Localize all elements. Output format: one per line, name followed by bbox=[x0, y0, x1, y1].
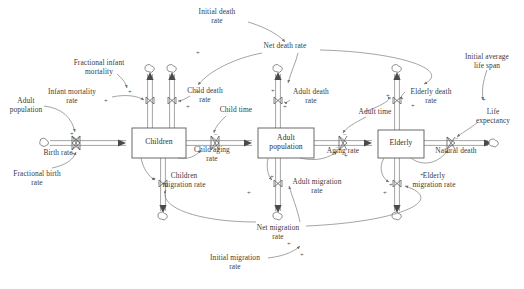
link-net-death-rate-to-child-death-rate bbox=[198, 53, 262, 85]
polarity-sign: + bbox=[70, 131, 74, 138]
stock-box-elderly bbox=[378, 130, 424, 158]
polarity-sign: + bbox=[344, 153, 348, 160]
sink-infant-mortality-cloud bbox=[145, 65, 154, 73]
link-initial-death-rate-to-net-death-rate bbox=[248, 22, 285, 42]
sink-elderly-death-cloud bbox=[392, 65, 401, 73]
link-initial-migration-to-net-migration bbox=[268, 246, 300, 258]
polarity-sign: + bbox=[411, 103, 415, 110]
link-adult-time-to-elderly-death bbox=[364, 98, 391, 112]
polarity-sign: + bbox=[271, 88, 275, 95]
polarity-sign: + bbox=[196, 50, 200, 57]
polarity-sign: + bbox=[482, 97, 486, 104]
sink-child-death-cloud bbox=[167, 65, 176, 73]
polarity-sign: − bbox=[214, 132, 218, 139]
link-infant-mortality-rate-to-valve bbox=[112, 96, 144, 100]
polarity-sign: + bbox=[383, 190, 387, 197]
polarity-sign: + bbox=[283, 104, 287, 111]
link-net-migration-to-adult-migration bbox=[289, 186, 300, 222]
polarity-sign: − bbox=[455, 136, 459, 143]
stock-box-adult-population bbox=[258, 128, 314, 158]
polarity-sign: + bbox=[152, 176, 156, 183]
polarity-sign: + bbox=[104, 98, 108, 105]
polarity-sign: + bbox=[186, 104, 190, 111]
sink-adult-death-cloud bbox=[273, 65, 282, 73]
source-birth-cloud bbox=[40, 138, 49, 146]
polarity-sign: + bbox=[386, 93, 390, 100]
valve-natural-death bbox=[447, 137, 455, 149]
stock-boxes bbox=[132, 128, 424, 158]
polarity-sign: + bbox=[300, 252, 304, 259]
polarity-sign: + bbox=[270, 174, 274, 181]
sink-natural-death-cloud bbox=[489, 139, 498, 147]
polarity-sign: + bbox=[420, 172, 424, 179]
link-net-migration-to-elderly-migration bbox=[306, 186, 421, 226]
polarity-sign: + bbox=[287, 241, 291, 248]
sink-adult-migration-cloud bbox=[273, 212, 282, 220]
link-life-expectancy-to-natural-death bbox=[457, 122, 478, 137]
link-net-death-rate-to-adult-death-rate bbox=[288, 53, 298, 83]
link-elderly-to-elderly-migration bbox=[381, 158, 389, 182]
link-child-death-rate-to-valve bbox=[178, 96, 190, 101]
polarity-sign: + bbox=[389, 182, 393, 189]
link-net-migration-to-children-migration bbox=[165, 190, 256, 222]
polarity-sign: + bbox=[196, 89, 200, 96]
link-net-death-rate-to-elderly-death-rate bbox=[320, 50, 432, 84]
diagram-canvas bbox=[0, 0, 524, 289]
valve-birth-rate bbox=[72, 136, 80, 150]
link-elderly-death-rate-to-valve bbox=[402, 92, 405, 99]
polarity-sign: + bbox=[71, 151, 75, 158]
link-fractional-infant-mortality-to-infant-mortality bbox=[117, 74, 127, 88]
system-dynamics-diagram: Children Adult population Elderly Birth … bbox=[0, 0, 524, 289]
link-adult-population-to-birth-rate bbox=[44, 106, 75, 132]
sink-children-migration-cloud bbox=[158, 212, 167, 220]
polarity-sign: + bbox=[128, 89, 132, 96]
polarity-sign: + bbox=[247, 190, 251, 197]
stock-box-children bbox=[132, 128, 186, 158]
polarity-sign: − bbox=[343, 132, 347, 139]
